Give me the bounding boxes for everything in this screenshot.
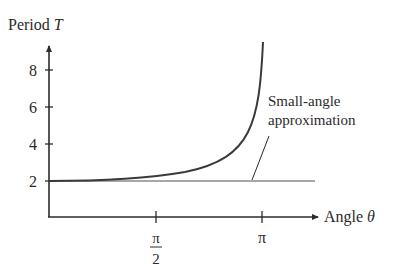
exact-period-curve [49,42,263,181]
annotation-label: Small-angle approximation [268,93,356,128]
x-tick-label-pi-half: π 2 [150,230,162,267]
y-axis-label: Period T [8,16,64,33]
period-vs-angle-chart: Period T 8 6 4 2 π 2 π Angle θ Small-ang… [0,0,408,278]
y-tick-label-6: 6 [29,99,37,116]
y-tick-label-8: 8 [29,62,37,79]
x-axis-label: Angle θ [324,208,375,226]
x-tick-label-pi: π [258,229,266,246]
y-tick-label-2: 2 [29,173,37,190]
y-tick-label-4: 4 [29,136,37,153]
svg-text:π: π [152,230,160,246]
svg-text:2: 2 [152,251,160,267]
annotation-leader-line [252,136,269,180]
